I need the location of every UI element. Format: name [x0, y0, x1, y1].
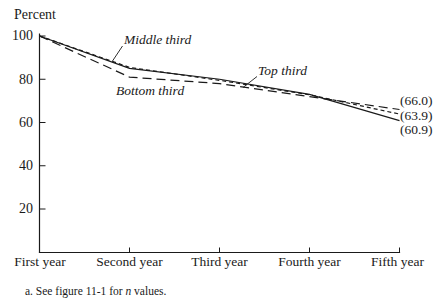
series-line-top-third — [40, 36, 400, 121]
series-label-bottom-third: Bottom third — [116, 83, 184, 99]
x-tick-label-second-year: Second year — [96, 254, 162, 270]
y-axis-title: Percent — [14, 7, 56, 23]
leader-middle-third — [113, 46, 123, 61]
x-tick-label-first-year: First year — [14, 254, 65, 270]
y-tick-label-80: 80 — [6, 73, 33, 87]
y-tick-label-60: 60 — [6, 116, 33, 130]
y-tick-label-100: 100 — [6, 29, 33, 43]
footnote-suffix: values. — [131, 285, 166, 297]
series-label-middle-third: Middle third — [124, 32, 191, 48]
series-line-bottom-third — [40, 36, 400, 110]
series-label-top-third: Top third — [258, 63, 307, 79]
x-tick-label-fifth-year: Fifth year — [371, 254, 424, 270]
x-tick-label-fourth-year: Fourth year — [278, 254, 341, 270]
series-line-middle-third — [40, 36, 400, 114]
y-tick-label-40: 40 — [6, 159, 33, 173]
x-tick-label-third-year: Third year — [191, 254, 248, 270]
footnote-prefix: a. See figure 11-1 for — [25, 285, 125, 297]
footnote: a. See figure 11-1 for n values. — [25, 285, 166, 297]
leader-top-third — [243, 77, 257, 88]
end-value-top-third: (60.9) — [400, 122, 433, 138]
y-tick-label-20: 20 — [6, 202, 33, 216]
figure-line-chart: Percent 100 80 60 40 20 First year Secon… — [0, 0, 441, 305]
